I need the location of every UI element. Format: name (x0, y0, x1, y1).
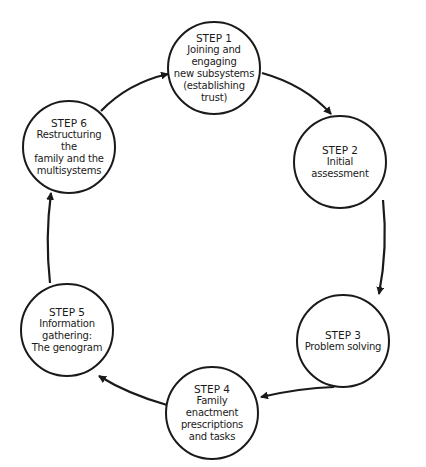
arrow-step4-to-step5 (99, 376, 167, 405)
step-2-title: STEP 2 (322, 144, 358, 156)
step-4-title: STEP 4 (194, 383, 230, 395)
step-4-circle: STEP 4 Family enactment prescriptions an… (165, 366, 259, 460)
step-6-circle: STEP 6 Restructuring the family and the … (22, 100, 116, 194)
step-1-title: STEP 1 (196, 32, 232, 44)
step-6-description: Restructuring the family and the multisy… (28, 129, 110, 177)
step-5-title: STEP 5 (49, 306, 85, 318)
step-2-circle: STEP 2 Initial assessment (293, 115, 387, 209)
arrow-step6-to-step1 (101, 74, 168, 111)
step-6-title: STEP 6 (51, 117, 87, 129)
arrow-step2-to-step3 (379, 200, 385, 294)
step-5-circle: STEP 5 Information gathering: The genogr… (20, 283, 114, 377)
step-1-description: Joining and engaging new subsystems (est… (174, 44, 254, 104)
step-1-circle: STEP 1 Joining and engaging new subsyste… (167, 21, 261, 115)
arrow-step3-to-step4 (261, 387, 334, 397)
step-4-description: Family enactment prescriptions and tasks (171, 395, 253, 443)
arrow-step5-to-step6 (48, 193, 51, 283)
step-2-description: Initial assessment (299, 156, 381, 180)
step-3-circle: STEP 3 Problem solving (296, 294, 390, 388)
step-3-title: STEP 3 (325, 329, 361, 341)
step-3-description: Problem solving (305, 341, 382, 353)
arrow-step1-to-step2 (262, 73, 331, 114)
step-5-description: Information gathering: The genogram (32, 318, 103, 354)
